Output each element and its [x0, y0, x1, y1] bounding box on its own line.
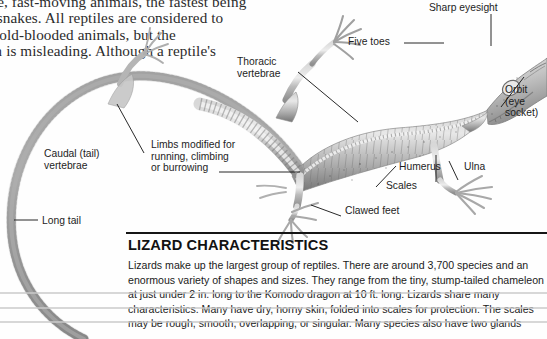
- scanned-textbook-page: agile, fast-moving animals, the fastest …: [0, 0, 547, 339]
- leader-clawed-feet: [311, 205, 341, 216]
- callout-thoracic-vertebrae: Thoracic vertebrae: [237, 56, 281, 79]
- panel-paragraph-line: at just under 2 in. long to the Komodo d…: [128, 287, 547, 302]
- callout-five-toes: Five toes: [348, 36, 390, 48]
- callout-orbit: Orbit (eye socket): [505, 84, 538, 119]
- panel-title: LIZARD CHARACTERISTICS: [128, 237, 328, 253]
- rear-limb-far: [108, 28, 168, 108]
- callout-long-tail: Long tail: [42, 215, 81, 227]
- panel-paragraph-line: Lizards make up the largest group of rep…: [128, 258, 547, 273]
- panel-paragraph-line: enormous variety of shapes and sizes. Th…: [128, 273, 547, 288]
- leader-thoracic: [298, 72, 358, 122]
- panel-paragraph-line: may be rough, smooth, overlapping, or si…: [128, 316, 547, 331]
- leader-ulna: [449, 161, 458, 180]
- callout-caudal-vertebrae: Caudal (tail) vertebrae: [44, 148, 100, 171]
- scan-artifact-band: [0, 292, 547, 294]
- leader-caudal: [117, 104, 144, 153]
- callout-sharp-eyesight: Sharp eyesight: [429, 2, 498, 14]
- callout-limbs-modified: Limbs modified for running, climbing or …: [151, 139, 235, 174]
- scan-artifact-band: [0, 321, 547, 323]
- panel-paragraph-line: characteristics. Many have dry, horny sk…: [128, 302, 547, 317]
- panel-top-rule: [126, 232, 547, 234]
- callout-clawed-feet: Clawed feet: [345, 205, 399, 217]
- callout-humerus: Humerus: [399, 161, 441, 173]
- hind-limb: [276, 16, 361, 122]
- callout-scales: Scales: [386, 180, 417, 192]
- callout-ulna: Ulna: [464, 161, 485, 173]
- forelimb-humerus-ulna: [434, 146, 492, 214]
- scan-artifact-band: [0, 307, 547, 309]
